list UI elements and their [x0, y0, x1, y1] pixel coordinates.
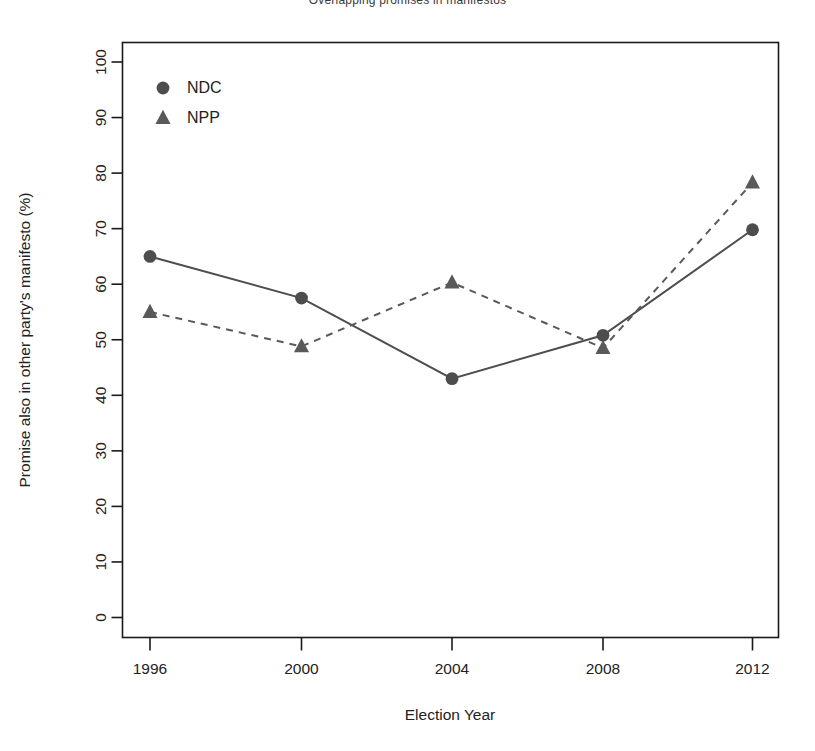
y-axis-tick-label: 40 [92, 386, 109, 404]
x-axis: 19962000200420082012 [133, 638, 770, 677]
plot-border [123, 43, 779, 638]
data-point-ndc [746, 223, 759, 236]
y-axis-tick-label: 30 [92, 442, 109, 460]
series-line-npp [150, 183, 753, 349]
y-axis-tick-label: 10 [92, 553, 109, 571]
y-axis-tick-label: 20 [92, 497, 109, 515]
data-point-npp [745, 174, 760, 188]
series-layer [142, 174, 760, 385]
x-axis-tick-label: 2012 [735, 660, 769, 677]
y-axis-tick-label: 90 [92, 109, 109, 127]
data-point-ndc [446, 372, 459, 385]
data-point-npp [595, 340, 610, 354]
legend-marker-ndc [157, 82, 170, 95]
legend-label-ndc: NDC [187, 79, 222, 96]
y-axis-tick-label: 0 [92, 613, 109, 622]
legend-marker-npp [155, 110, 170, 124]
data-point-ndc [597, 329, 610, 342]
y-axis-tick-label: 80 [92, 164, 109, 182]
chart-figure: Overlapping promises in manifestos 01020… [0, 0, 815, 751]
data-point-ndc [144, 250, 157, 263]
legend-label-npp: NPP [187, 109, 220, 126]
chart-legend: NDCNPP [155, 79, 221, 126]
y-axis-tick-label: 50 [92, 331, 109, 349]
x-axis-tick-label: 2008 [586, 660, 620, 677]
x-axis-tick-label: 1996 [133, 660, 167, 677]
series-line-ndc [150, 230, 753, 379]
x-axis-title: Election Year [405, 706, 496, 723]
x-axis-tick-label: 2004 [435, 660, 470, 677]
data-point-npp [444, 274, 459, 288]
data-point-ndc [295, 292, 308, 305]
y-axis-title: Promise also in other party's manifesto … [16, 193, 33, 488]
data-point-npp [142, 304, 157, 318]
y-axis: 0102030405060708090100 [92, 49, 123, 622]
y-axis-tick-label: 60 [92, 275, 109, 293]
y-axis-tick-label: 100 [92, 49, 109, 75]
x-axis-tick-label: 2000 [284, 660, 319, 677]
y-axis-tick-label: 70 [92, 220, 109, 238]
line-chart-plot: 0102030405060708090100 19962000200420082… [0, 0, 815, 751]
